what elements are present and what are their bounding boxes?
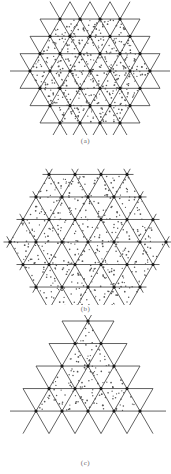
panel-c: [0, 315, 171, 455]
panel-a: [0, 0, 171, 135]
lattice-diagram-b: [0, 150, 171, 305]
lattice-diagram-c: [0, 315, 171, 455]
caption-a: (a): [0, 137, 171, 145]
lattice-diagram-a: [0, 0, 171, 135]
caption-b: (b): [0, 305, 171, 313]
caption-c: (c): [0, 459, 171, 467]
panel-b: [0, 150, 171, 305]
